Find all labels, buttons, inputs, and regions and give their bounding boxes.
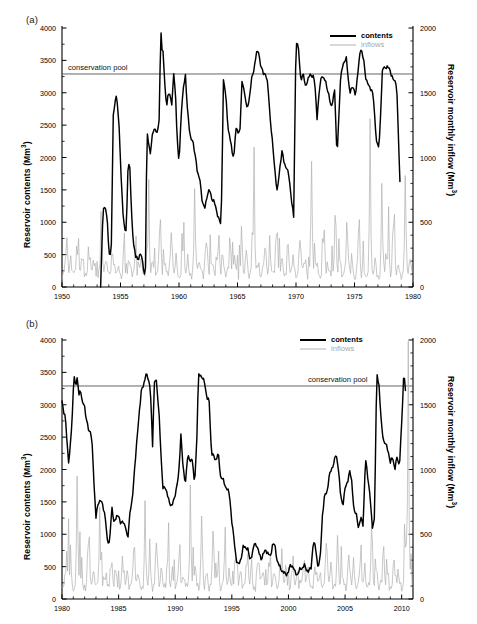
x-tick-label: 1965 [218, 292, 258, 301]
y-tick-label: 3500 [18, 56, 56, 65]
conservation-pool-label: conservation pool [308, 375, 368, 384]
y-tick-label: 1000 [18, 530, 56, 539]
x-tick-label: 1990 [155, 604, 195, 613]
panel-b: (b) Reservoir contents (Mm3) Reservoir m… [0, 312, 477, 624]
y2-tick-label: 1500 [420, 401, 436, 410]
y-tick-label: 2000 [18, 466, 56, 475]
panel-a-plot [0, 0, 477, 312]
y2-tick-label: 0 [420, 283, 424, 292]
y2-tick-label: 0 [420, 595, 424, 604]
y2-tick-label: 500 [420, 218, 432, 227]
x-tick-label: 1955 [101, 292, 141, 301]
y-tick-label: 1000 [18, 218, 56, 227]
y-tick-label: 1500 [18, 498, 56, 507]
x-tick-label: 2005 [325, 604, 365, 613]
x-tick-label: 1970 [276, 292, 316, 301]
y-tick-label: 3000 [18, 89, 56, 98]
y-tick-label: 2500 [18, 121, 56, 130]
series-inflows-line [62, 119, 412, 280]
x-tick-label: 1980 [42, 604, 82, 613]
series-contents-line [62, 374, 405, 576]
y2-tick-label: 2000 [420, 336, 436, 345]
y-tick-label: 500 [18, 251, 56, 260]
conservation-pool-label: conservation pool [68, 63, 128, 72]
y-tick-label: 2500 [18, 433, 56, 442]
y-tick-label: 2000 [18, 154, 56, 163]
y-tick-label: 4000 [18, 336, 56, 345]
legend-label-inflows: inflows [331, 344, 354, 353]
y-tick-label: 3500 [18, 368, 56, 377]
x-tick-label: 1985 [99, 604, 139, 613]
x-tick-label: 1980 [393, 292, 433, 301]
panel-a: (a) Reservoir contents (Mm3) Reservoir m… [0, 0, 477, 312]
y2-tick-label: 500 [420, 530, 432, 539]
legend-label-inflows: inflows [361, 40, 384, 49]
x-tick-label: 1950 [42, 292, 82, 301]
y-tick-label: 500 [18, 563, 56, 572]
x-tick-label: 2000 [268, 604, 308, 613]
x-tick-label: 1960 [159, 292, 199, 301]
legend-label-contents: contents [361, 31, 393, 40]
series-contents-line [101, 33, 400, 287]
y-tick-label: 4000 [18, 24, 56, 33]
y2-tick-label: 2000 [420, 24, 436, 33]
x-tick-label: 1995 [212, 604, 252, 613]
figure-reservoir-contents-inflows: (a) Reservoir contents (Mm3) Reservoir m… [0, 0, 477, 624]
y-tick-label: 3000 [18, 401, 56, 410]
y2-tick-label: 1000 [420, 154, 436, 163]
y-tick-label: 1500 [18, 186, 56, 195]
y-tick-label: 0 [18, 595, 56, 604]
panel-b-plot [0, 312, 477, 624]
y2-tick-label: 1500 [420, 89, 436, 98]
legend-label-contents: contents [331, 335, 363, 344]
x-tick-label: 1975 [335, 292, 375, 301]
y2-tick-label: 1000 [420, 466, 436, 475]
x-tick-label: 2010 [382, 604, 422, 613]
y-tick-label: 0 [18, 283, 56, 292]
